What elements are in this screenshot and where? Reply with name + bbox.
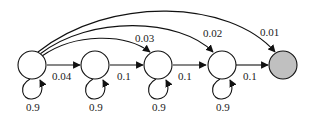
self-loop-s3 — [149, 79, 168, 99]
node-s4 — [208, 51, 236, 79]
node-s2 — [81, 51, 109, 79]
edge-s1-s5 — [38, 11, 275, 52]
node-s5 — [269, 51, 297, 79]
edge-label-s2-s3: 0.1 — [117, 70, 131, 82]
edge-label-s1-s3: 0.03 — [135, 32, 155, 44]
edge-label-s4-s5: 0.1 — [243, 70, 257, 82]
self-loop-label-s3: 0.9 — [152, 101, 166, 113]
self-loop-s1 — [23, 79, 42, 99]
self-loop-label-s1: 0.9 — [26, 101, 40, 113]
self-loop-label-s2: 0.9 — [89, 101, 103, 113]
edge-label-s1-s4: 0.02 — [203, 27, 222, 39]
node-s3 — [144, 51, 172, 79]
self-loop-s2 — [86, 79, 105, 99]
edge-label-s3-s4: 0.1 — [178, 70, 192, 82]
edge-label-s1-s5: 0.01 — [260, 26, 279, 38]
edge-s1-s4 — [40, 26, 213, 54]
self-loop-s4 — [213, 79, 232, 99]
node-s1 — [18, 51, 46, 79]
markov-chain-diagram: 0.04 0.1 0.1 0.1 0.03 0.02 0.01 0.9 0.9 … — [0, 0, 315, 124]
edge-label-s1-s2: 0.04 — [52, 70, 72, 82]
self-loop-label-s4: 0.9 — [216, 101, 230, 113]
